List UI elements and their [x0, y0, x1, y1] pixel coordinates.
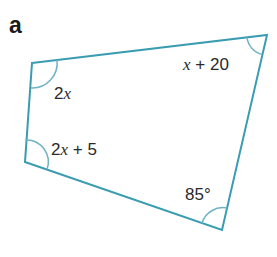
- angle-arc-top-right: [247, 38, 263, 55]
- angle-label-top-right: x + 20: [182, 55, 229, 74]
- quadrilateral-diagram: 2x x + 20 2x + 5 85°: [0, 0, 277, 257]
- angle-label-bottom-right: 85°: [185, 185, 211, 204]
- quadrilateral-shape: [25, 35, 267, 230]
- angle-label-bottom-left: 2x + 5: [51, 140, 97, 159]
- angle-label-top-left: 2x: [54, 84, 71, 103]
